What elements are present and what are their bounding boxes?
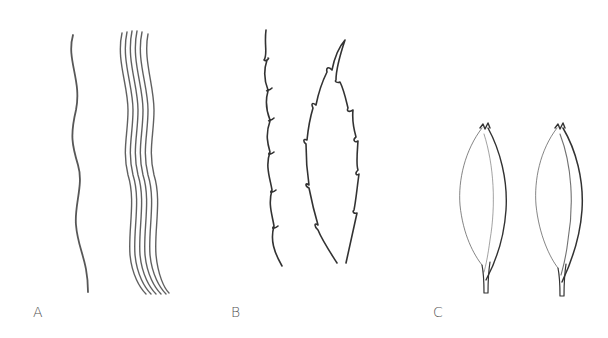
serrate-leaf <box>304 40 359 263</box>
figure-drawing <box>0 0 608 338</box>
panel-label-a: A <box>33 304 43 320</box>
parallel-wavy-lines <box>120 31 169 294</box>
panel-c-drawing <box>460 123 583 296</box>
panel-a-drawing <box>71 31 169 294</box>
serrated-margin <box>264 30 282 266</box>
bract-left <box>460 123 507 293</box>
bract-right <box>536 123 583 296</box>
panel-label-b: B <box>231 304 240 320</box>
panel-label-c: C <box>433 304 443 320</box>
single-wavy-line <box>71 35 88 292</box>
botanical-figure: A B C <box>0 0 608 338</box>
panel-b-drawing <box>264 30 359 266</box>
